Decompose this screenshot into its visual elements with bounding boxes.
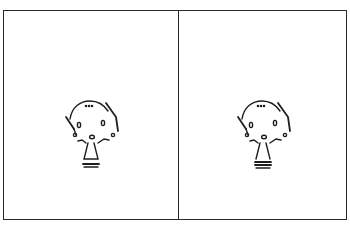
character-drawing-icon — [62, 93, 126, 173]
comic-panel-1 — [3, 10, 179, 220]
character-figure — [62, 93, 126, 173]
character-drawing-icon — [234, 93, 298, 173]
comic-panel-2 — [178, 10, 347, 220]
character-figure — [234, 93, 298, 173]
